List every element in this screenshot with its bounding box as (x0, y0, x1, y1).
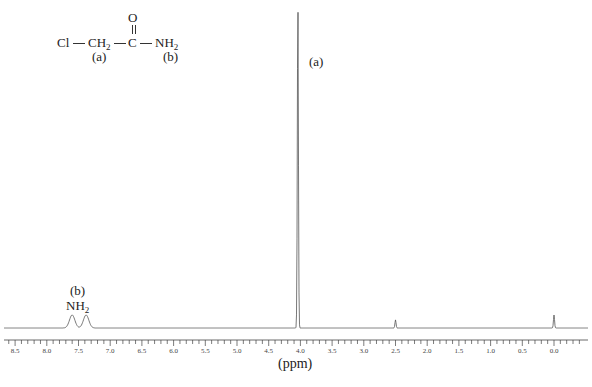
bond-2 (114, 43, 126, 44)
svg-text:1.5: 1.5 (455, 347, 464, 355)
svg-text:7.5: 7.5 (74, 347, 83, 355)
svg-text:8.0: 8.0 (42, 347, 51, 355)
svg-text:1.0: 1.0 (486, 347, 495, 355)
bond-3 (140, 43, 152, 44)
svg-text:0.5: 0.5 (518, 347, 527, 355)
svg-text:6.5: 6.5 (138, 347, 147, 355)
svg-text:3.0: 3.0 (359, 347, 368, 355)
svg-text:8.5: 8.5 (11, 347, 20, 355)
nh2-peak-label: NH2 (66, 298, 89, 315)
bond-1 (73, 43, 85, 44)
svg-text:0.0: 0.0 (550, 347, 559, 355)
label-a: (a) (92, 49, 106, 65)
double-bond (132, 25, 136, 34)
carbonyl-oxygen: O (128, 10, 137, 26)
chlorine: Cl (57, 35, 69, 51)
svg-text:4.5: 4.5 (264, 347, 273, 355)
svg-text:2.0: 2.0 (423, 347, 432, 355)
peak-a-label: (a) (309, 54, 323, 70)
peak-b-label: (b) (70, 283, 85, 299)
nmr-spectrum-plot: 8.58.07.57.06.56.05.55.04.54.03.53.02.52… (0, 0, 592, 387)
svg-text:5.0: 5.0 (233, 347, 242, 355)
svg-text:4.0: 4.0 (296, 347, 305, 355)
label-b: (b) (163, 49, 178, 65)
x-axis-title: (ppm) (278, 356, 312, 372)
svg-text:5.5: 5.5 (201, 347, 210, 355)
svg-text:6.0: 6.0 (169, 347, 178, 355)
svg-text:7.0: 7.0 (106, 347, 115, 355)
carbonyl-carbon: C (128, 35, 137, 51)
x-axis: 8.58.07.57.06.56.05.55.04.54.03.53.02.52… (4, 340, 588, 355)
svg-text:3.5: 3.5 (328, 347, 337, 355)
svg-text:2.5: 2.5 (391, 347, 400, 355)
